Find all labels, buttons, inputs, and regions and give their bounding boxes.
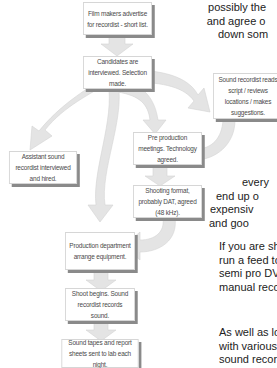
text-top: possibly the and agree o down som [207, 1, 268, 42]
text-paragraph-2: If you are sh run a feed to semi pro DV … [219, 240, 277, 294]
text-line: end up o [216, 190, 269, 204]
text-line: As well as lo [219, 326, 277, 340]
text-line: If you are sh [219, 240, 277, 254]
box-equipment: Production department arrange equipment. [65, 232, 135, 270]
text-line: semi pro DV [219, 267, 277, 281]
text-line: and agree o [204, 15, 268, 29]
text-line: run a feed to [219, 254, 277, 268]
box-shoot: Shoot begins. Sound recordist records so… [65, 288, 135, 321]
box-tapes: Sound tapes and report sheets sent to la… [61, 339, 138, 368]
box-preproduction: Pre production meetings. Technology agre… [133, 132, 202, 165]
text-line: expensiv [210, 203, 269, 217]
text-line: every [242, 176, 269, 190]
text-line: sound recor [219, 353, 277, 367]
box-assistant: Assistant sound recordist interviewed an… [9, 151, 77, 184]
text-line: with various [219, 340, 277, 354]
box-reads-script: Sound recordist reads script / reviews l… [213, 73, 277, 119]
text-middle: every end up o expensiv and goo [210, 176, 269, 230]
text-line: possibly the [206, 1, 268, 15]
arrow-down-2 [145, 166, 175, 186]
text-line: and goo [209, 217, 269, 231]
box-interview: Candidates are interviewed. Selection ma… [83, 56, 152, 89]
box-advertise: Film makers advertise for recordist - sh… [83, 2, 152, 35]
box-format: Shooting format, probably DAT, agreed (4… [133, 185, 202, 218]
arrow-curve-preprod [118, 82, 166, 134]
text-line: down som [218, 28, 268, 42]
text-line: manual reco [219, 281, 277, 295]
arrow-long-down [88, 82, 119, 222]
arrow-down-1 [101, 35, 133, 56]
text-paragraph-3: As well as lo with various sound recor [219, 326, 277, 367]
